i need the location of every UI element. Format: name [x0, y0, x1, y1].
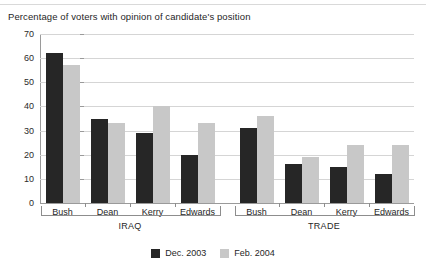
legend-swatch-icon	[220, 249, 229, 258]
legend-label: Dec. 2003	[165, 248, 206, 258]
y-tick-label-50: 50	[0, 77, 34, 87]
bar	[46, 53, 63, 203]
group-bracket-trade	[235, 206, 415, 216]
bar	[91, 119, 108, 204]
y-tick-label-60: 60	[0, 53, 34, 63]
y-tick-label-40: 40	[0, 101, 34, 111]
chart-title: Percentage of voters with opinion of can…	[8, 11, 251, 22]
bar	[302, 157, 319, 203]
y-tick-label-70: 70	[0, 29, 34, 39]
y-tick-label-0: 0	[0, 198, 34, 208]
group-bracket-iraq	[41, 206, 221, 216]
legend-swatch-icon	[151, 249, 160, 258]
bar	[108, 123, 125, 203]
bar	[198, 123, 215, 203]
bar	[257, 116, 274, 203]
bar	[330, 167, 347, 203]
y-tick-label-20: 20	[0, 150, 34, 160]
x-axis: BushDeanKerryEdwardsIRAQBushDeanKerryEdw…	[40, 203, 414, 235]
bar	[375, 174, 392, 203]
y-axis-labels: 010203040506070	[0, 34, 34, 203]
group-label-trade: TRADE	[235, 221, 413, 231]
top-divider	[0, 4, 426, 5]
y-tick-label-10: 10	[0, 174, 34, 184]
y-tick-label-30: 30	[0, 126, 34, 136]
group-label-iraq: IRAQ	[41, 221, 219, 231]
bar	[347, 145, 364, 203]
legend-item[interactable]: Dec. 2003	[151, 248, 206, 258]
legend-item[interactable]: Feb. 2004	[220, 248, 275, 258]
bar	[136, 133, 153, 203]
bar	[392, 145, 409, 203]
chart-legend: Dec. 2003Feb. 2004	[0, 248, 426, 258]
bar-series-container	[40, 34, 414, 203]
bar	[63, 65, 80, 203]
bar	[285, 164, 302, 203]
legend-label: Feb. 2004	[234, 248, 275, 258]
bar	[153, 106, 170, 203]
bar	[240, 128, 257, 203]
bar	[181, 155, 198, 203]
